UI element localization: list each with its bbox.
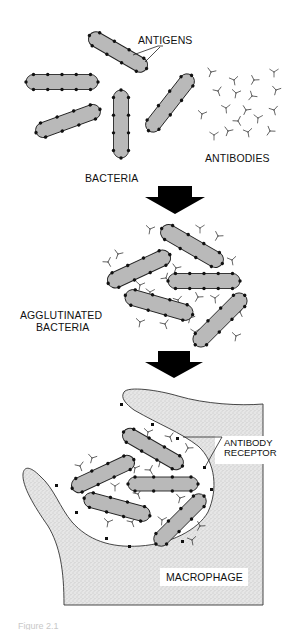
antigen-dot [112, 96, 115, 99]
antigen-dot [189, 475, 192, 478]
antibody-icon [175, 494, 185, 504]
figure-caption: Figure 2.1 [18, 621, 59, 630]
antibody-icon [182, 443, 193, 454]
down-arrow-icon [145, 351, 203, 378]
bacterium [140, 68, 200, 137]
antigen-dot [174, 272, 177, 275]
bacteria-group [24, 27, 200, 160]
antigen-dot [89, 88, 92, 91]
macrophage-label: MACROPHAGE [166, 571, 243, 583]
antibody-icon [243, 129, 253, 138]
immune-agglutination-diagram: ANTIGENS ANTIBODIES BACTERIA AGGLUTINATE… [0, 0, 303, 630]
antigen-dot [189, 489, 192, 492]
antibody-icon [271, 86, 281, 96]
bacterium [112, 88, 130, 159]
antigen-dot [112, 149, 115, 152]
antibody-icon [222, 127, 233, 137]
antibody-icon [212, 231, 223, 242]
antigen-dot [89, 73, 92, 76]
antigen-dot [32, 88, 35, 91]
antibody-icon [165, 433, 176, 443]
antibody-icon [103, 257, 114, 268]
antibody-icon [227, 257, 237, 266]
antigen-dot [127, 113, 130, 116]
antibodies-label: ANTIBODIES [205, 152, 270, 164]
antibody-icon [111, 483, 120, 491]
antigen-dot [152, 475, 155, 478]
antigen-dot [75, 73, 78, 76]
bacteria-label: BACTERIA [85, 172, 138, 184]
antibody-icon [213, 87, 224, 97]
antibody-icon [231, 333, 241, 342]
antigen-dot [188, 287, 191, 290]
down-arrow-icon [145, 186, 205, 214]
bacterium [67, 451, 139, 498]
antigen-dot [46, 73, 49, 76]
bacterium [31, 100, 104, 142]
bacterium [24, 73, 99, 91]
antigen-dot [127, 96, 130, 99]
antibody-icon [253, 115, 262, 123]
antigen-dot [46, 88, 49, 91]
antibody-icon [264, 126, 275, 137]
agglutinated-bacteria-group [103, 219, 253, 353]
antibody-icon [160, 320, 171, 330]
antigen-dot [217, 287, 220, 290]
antibody-icon [269, 106, 279, 116]
antibody-icon [210, 132, 219, 140]
antigen-dot [202, 272, 205, 275]
antibody-icon [196, 225, 205, 233]
antigen-dot [127, 131, 130, 134]
antigen-dot [202, 287, 205, 290]
bacterium [187, 287, 253, 353]
antigen-dot [75, 88, 78, 91]
antibody-icon [135, 319, 145, 328]
free-antibodies-group [197, 68, 281, 140]
bacterium [103, 245, 176, 293]
antibody-icon [211, 295, 220, 303]
stage-macrophage: ANTIBODY RECEPTOR MACROPHAGE [23, 389, 277, 605]
antigen-dot [171, 489, 174, 492]
bacterium [80, 489, 154, 525]
antigen-dot [127, 149, 130, 152]
antibody-icon [205, 68, 216, 78]
antibody-icon [233, 116, 244, 127]
antigen-dot [217, 272, 220, 275]
antigen-dot [133, 489, 136, 492]
antibody-icon [197, 111, 207, 120]
antigen-dot [32, 73, 35, 76]
antibody-icon [246, 91, 257, 102]
antibody-icon [231, 90, 241, 99]
antibody-icon [270, 69, 279, 77]
antibody-icon [75, 462, 86, 472]
antibody-icon [248, 75, 259, 86]
antigen-dot [112, 113, 115, 116]
antibody-icon [240, 106, 251, 117]
bacterium [166, 272, 241, 290]
antibody-icon [112, 250, 123, 260]
antigen-dot [188, 272, 191, 275]
agglutinated-label-line2: BACTERIA [36, 321, 89, 333]
stage-free-bacteria: ANTIGENS ANTIBODIES BACTERIA [24, 27, 281, 184]
antigen-dot [174, 287, 177, 290]
antigen-dot [152, 489, 155, 492]
antigen-dot [60, 88, 63, 91]
antigen-dot [231, 272, 234, 275]
antibody-icon [87, 454, 97, 464]
stage-agglutinated: AGGLUTINATED BACTERIA [20, 219, 253, 353]
antibody-receptor-label-line2: RECEPTOR [224, 447, 277, 458]
antibody-icon [222, 105, 231, 113]
antigen-dot [171, 475, 174, 478]
antibody-icon [192, 292, 203, 303]
antibody-icon [229, 77, 239, 86]
bacterium [126, 475, 199, 492]
antigen-dot [60, 73, 63, 76]
antigen-dot [231, 287, 234, 290]
antibody-icon [145, 226, 155, 235]
agglutinated-label-line1: AGGLUTINATED [20, 309, 102, 321]
bacterium [121, 286, 197, 325]
antibody-icon [103, 519, 113, 528]
antigen-dot [133, 475, 136, 478]
antigens-label: ANTIGENS [138, 34, 192, 46]
antibody-icon [145, 465, 156, 476]
